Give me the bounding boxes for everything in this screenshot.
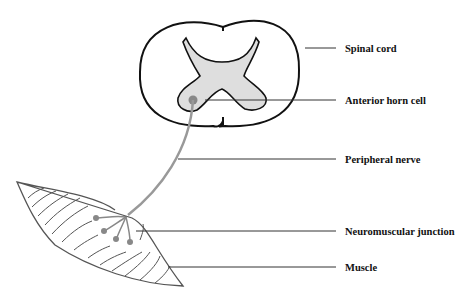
diagram-canvas: Spinal cord Anterior horn cell Periphera… [0,0,475,302]
nerve-terminals [96,216,130,242]
muscle-outline [17,182,183,286]
label-spinal-cord: Spinal cord [345,43,397,54]
label-muscle: Muscle [345,262,377,273]
label-neuromuscular-junction: Neuromuscular junction [345,226,455,237]
label-peripheral-nerve: Peripheral nerve [345,154,421,165]
label-anterior-horn-cell: Anterior horn cell [345,95,426,106]
